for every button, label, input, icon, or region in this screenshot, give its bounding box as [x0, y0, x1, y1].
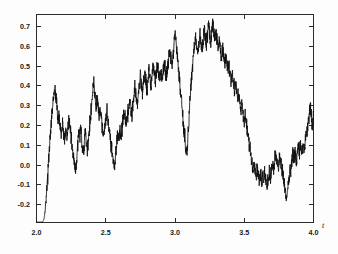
y-tick-label: 0.7 — [20, 22, 30, 31]
chart-figure: -0.2-0.10.00.10.20.30.40.50.60.7 2.02.53… — [0, 0, 338, 254]
y-tick-label: 0.6 — [20, 42, 30, 51]
plot-canvas: -0.2-0.10.00.10.20.30.40.50.60.7 2.02.53… — [0, 0, 338, 254]
y-tick-label: 0.3 — [20, 101, 30, 110]
x-tick-label: 2.0 — [32, 228, 42, 237]
y-tick-label: -0.1 — [18, 180, 30, 189]
y-tick-label: -0.2 — [18, 200, 30, 209]
x-tick-label: 3.0 — [170, 228, 180, 237]
y-tick-label: 0.1 — [20, 141, 30, 150]
x-tick-label: 4.0 — [309, 228, 319, 237]
x-tick-label: 3.5 — [239, 228, 249, 237]
x-tick-label: 2.5 — [101, 228, 111, 237]
y-tick-label: 0.5 — [20, 62, 30, 71]
y-tick-label: 0.4 — [20, 81, 30, 90]
y-tick-label: 0.2 — [20, 121, 30, 130]
y-tick-label: 0.0 — [20, 161, 30, 170]
